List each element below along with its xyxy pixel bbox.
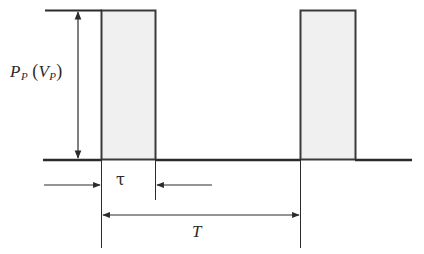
pulse-waveform-figure: PP (VP) τ T [0, 0, 424, 254]
pulse-rect-2 [301, 11, 356, 160]
pulse-rect-1 [102, 11, 156, 160]
waveform-canvas [0, 0, 424, 254]
